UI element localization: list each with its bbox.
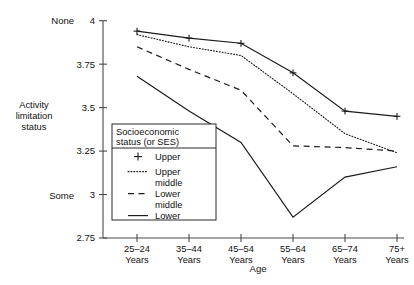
x-tick-label: Years [333, 255, 357, 265]
legend-item-label: middle [155, 178, 182, 188]
legend-item-label: Upper [155, 167, 180, 177]
y-axis-title-line-2: limitation [16, 111, 53, 121]
y-axis-title-line-1: Activity [19, 100, 49, 110]
x-tick-label: Years [281, 255, 305, 265]
x-tick-label: 75+ [389, 244, 405, 254]
legend-title-line-1: Socioeconomic [116, 127, 179, 137]
legend-item-label: Lower [155, 211, 180, 221]
y-tick-label: 3 [90, 189, 95, 200]
legend-item-label: Lower [155, 189, 180, 199]
activity-limitation-by-age-chart: 43.753.53.2532.75 25–24Years35–44Years45… [0, 0, 414, 285]
x-tick-label: 25–24 [124, 244, 150, 254]
y-axis-end-label-some: Some [49, 190, 74, 201]
y-axis-ticks: 43.753.53.2532.75 [77, 15, 108, 243]
x-tick-label: Years [385, 255, 409, 265]
x-tick-label: 45–54 [228, 244, 254, 254]
x-tick-label: 55–64 [280, 244, 306, 254]
legend[interactable]: Socioeconomic status (or SES) UpperUpper… [112, 124, 216, 221]
legend-item-label: middle [155, 200, 182, 210]
y-tick-label: 3.25 [77, 145, 96, 156]
data-point-marker-plus [186, 35, 193, 42]
chart-svg: 43.753.53.2532.75 25–24Years35–44Years45… [0, 0, 414, 285]
legend-title-line-2: status (or SES) [116, 137, 179, 147]
y-tick-label: 2.75 [77, 232, 96, 243]
legend-item-label: Upper [155, 152, 180, 162]
x-tick-label: Years [177, 255, 201, 265]
y-tick-label: 3.5 [82, 102, 95, 113]
y-tick-label: 3.75 [77, 59, 96, 70]
data-point-marker-plus [134, 28, 141, 35]
x-tick-label: Years [125, 255, 149, 265]
y-tick-label: 4 [90, 15, 95, 26]
x-tick-label: 65–74 [332, 244, 358, 254]
data-point-marker-plus [394, 113, 401, 120]
x-axis-ticks: 25–24Years35–44Years45–54Years55–64Years… [124, 234, 409, 265]
x-tick-label: 35–44 [176, 244, 202, 254]
x-axis-title: Age [250, 263, 267, 274]
y-axis-end-label-none: None [51, 15, 74, 26]
data-point-marker-plus [238, 40, 245, 47]
y-axis-title-line-3: status [22, 122, 47, 132]
